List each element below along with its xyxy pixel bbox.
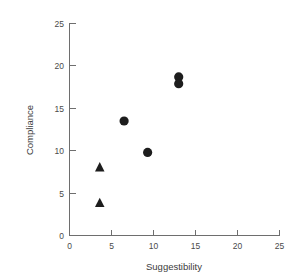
y-tick-label-0: 0 bbox=[59, 231, 64, 241]
x-tick-label-0: 0 bbox=[67, 241, 72, 251]
x-tick-label-25: 25 bbox=[275, 241, 285, 251]
x-tick-label-10: 10 bbox=[149, 241, 159, 251]
y-tick-label-15: 15 bbox=[55, 104, 65, 114]
data-point-triangle bbox=[95, 162, 105, 171]
x-axis-title: Suggestibility bbox=[146, 261, 202, 272]
chart-canvas: 25 20 15 10 5 0 0 5 10 15 20 25 Suggesti… bbox=[0, 0, 304, 279]
y-tick-label-5: 5 bbox=[59, 189, 64, 199]
data-point-circle bbox=[143, 148, 152, 157]
x-axis: 0 5 10 15 20 25 bbox=[67, 230, 284, 252]
x-tick-label-5: 5 bbox=[109, 241, 114, 251]
data-point-circle bbox=[174, 79, 183, 88]
y-tick-label-20: 20 bbox=[55, 61, 65, 71]
y-tick-label-25: 25 bbox=[55, 19, 65, 29]
y-axis-title: Compliance bbox=[24, 105, 35, 155]
scatter-plot-figure: 25 20 15 10 5 0 0 5 10 15 20 25 Suggesti… bbox=[0, 0, 304, 279]
x-tick-label-20: 20 bbox=[233, 241, 243, 251]
y-tick-label-10: 10 bbox=[55, 146, 65, 156]
y-axis: 25 20 15 10 5 0 bbox=[55, 19, 76, 241]
data-point-triangle bbox=[95, 198, 105, 207]
data-markers-group bbox=[95, 72, 183, 207]
x-tick-label-15: 15 bbox=[191, 241, 201, 251]
data-point-circle bbox=[120, 116, 129, 125]
